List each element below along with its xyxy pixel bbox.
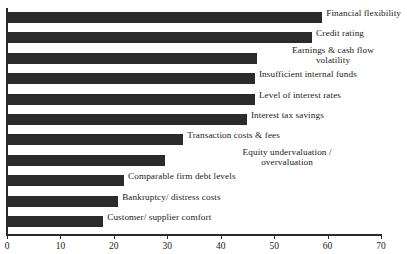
bar-label-line: volatility xyxy=(261,55,405,65)
bar xyxy=(7,134,183,145)
x-axis-tick-label: 40 xyxy=(210,241,232,252)
bar-row: Equity undervaluation /overvaluation xyxy=(0,151,407,171)
bar-label: Comparable firm debt levels xyxy=(128,172,236,182)
bar-row: Comparable firm debt levels xyxy=(0,171,407,191)
bar-label: Interest tax savings xyxy=(251,111,324,121)
bar-label-line: Earnings & cash flow xyxy=(261,45,405,55)
x-axis-tick-label: 50 xyxy=(263,241,285,252)
bar-label: Insufficient internal funds xyxy=(259,70,357,80)
bar xyxy=(7,216,103,227)
bar xyxy=(7,155,165,166)
bar-label: Transaction costs & fees xyxy=(187,131,280,141)
bar xyxy=(7,53,257,64)
x-axis-tick-label: 10 xyxy=(49,241,71,252)
bar-label-line: overvaluation xyxy=(169,157,405,167)
x-axis-tick xyxy=(381,236,382,239)
x-axis-tick-label: 60 xyxy=(317,241,339,252)
plot-area: Financial flexibilityCredit ratingEarnin… xyxy=(0,0,407,236)
bar xyxy=(7,94,255,105)
bar-row: Level of interest rates xyxy=(0,90,407,110)
bar xyxy=(7,32,312,43)
bar-label: Earnings & cash flowvolatility xyxy=(261,45,405,65)
bar-chart: Financial flexibilityCredit ratingEarnin… xyxy=(0,0,407,254)
x-axis-tick-label: 20 xyxy=(103,241,125,252)
bar-label: Level of interest rates xyxy=(259,91,341,101)
x-axis-tick xyxy=(60,236,61,239)
x-axis-tick xyxy=(328,236,329,239)
x-axis-tick xyxy=(7,236,8,239)
x-axis-tick xyxy=(221,236,222,239)
bar-label-line: Equity undervaluation / xyxy=(169,147,405,157)
bar-label: Bankruptcy/ distress costs xyxy=(122,193,221,203)
x-axis-tick xyxy=(114,236,115,239)
bar-label: Equity undervaluation /overvaluation xyxy=(169,147,405,167)
bar-row: Insufficient internal funds xyxy=(0,69,407,89)
bar-row: Earnings & cash flowvolatility xyxy=(0,49,407,69)
bar-row: Interest tax savings xyxy=(0,110,407,130)
bar-row: Customer/ supplier comfort xyxy=(0,212,407,232)
x-axis-tick-label: 70 xyxy=(370,241,392,252)
x-axis-tick-label: 0 xyxy=(0,241,18,252)
bar-label: Customer/ supplier comfort xyxy=(107,213,211,223)
bar-row: Bankruptcy/ distress costs xyxy=(0,192,407,212)
bar-row: Financial flexibility xyxy=(0,8,407,28)
x-axis-tick xyxy=(274,236,275,239)
x-axis-tick xyxy=(167,236,168,239)
bar xyxy=(7,73,255,84)
bar xyxy=(7,175,124,186)
x-axis-tick-label: 30 xyxy=(156,241,178,252)
bar-label: Financial flexibility xyxy=(326,9,401,19)
bar-label: Credit rating xyxy=(316,29,364,39)
bar xyxy=(7,196,118,207)
bar xyxy=(7,12,322,23)
bar xyxy=(7,114,247,125)
